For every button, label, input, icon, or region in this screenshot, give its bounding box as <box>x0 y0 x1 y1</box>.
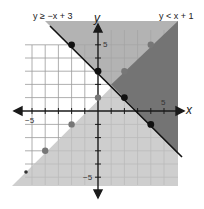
y-tick-label-pos: 5 <box>103 40 107 49</box>
label-dashed-inequality: y < x + 1 <box>159 11 194 21</box>
label-solid-inequality: y ≥ −x + 3 <box>33 11 72 21</box>
coordinate-plane <box>0 0 204 209</box>
x-tick-label-pos: 5 <box>161 98 165 107</box>
x-tick-label-neg: −5 <box>25 116 34 125</box>
y-tick-label-neg: −5 <box>83 173 92 182</box>
x-axis-label: x <box>186 103 192 117</box>
y-axis-label: y <box>94 11 100 25</box>
